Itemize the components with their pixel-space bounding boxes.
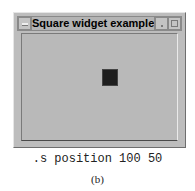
- window-title: Square widget example: [31, 17, 155, 30]
- square-widget[interactable]: [102, 69, 118, 86]
- app-window: Square widget example: [13, 12, 186, 148]
- window-menu-icon[interactable]: [18, 17, 31, 30]
- title-bar[interactable]: Square widget example: [17, 16, 182, 31]
- widget-canvas[interactable]: [21, 33, 178, 141]
- command-text: .s position 100 50: [0, 152, 195, 166]
- maximize-icon[interactable]: [168, 17, 181, 30]
- figure-caption: (b): [0, 173, 195, 185]
- minimize-icon[interactable]: [155, 17, 168, 30]
